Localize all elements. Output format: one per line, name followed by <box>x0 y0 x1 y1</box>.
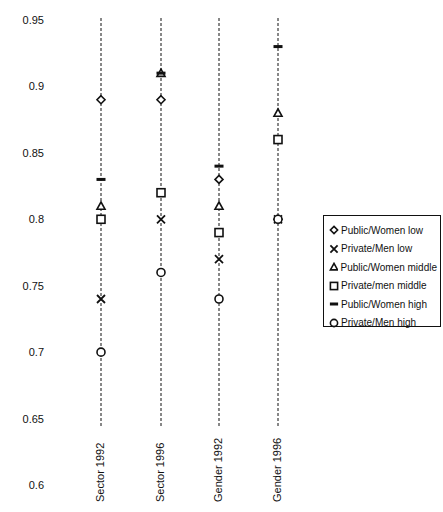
triangle-marker-icon <box>274 109 282 116</box>
legend-label: Private/Men low <box>341 243 412 254</box>
legend: Public/Women lowPrivate/Men lowPublic/Wo… <box>323 215 441 327</box>
series-public-women-middle <box>97 69 282 209</box>
legend-label: Private/men middle <box>341 280 427 291</box>
x-marker-icon <box>97 295 105 303</box>
legend-items: Public/Women lowPrivate/Men lowPublic/Wo… <box>329 221 437 332</box>
series-private-men-high <box>97 215 282 356</box>
x-marker-icon <box>157 215 165 223</box>
series-public-women-high <box>97 45 283 181</box>
square-marker-icon <box>97 215 105 223</box>
triangle-marker-icon <box>330 264 337 270</box>
y-tick-label: 0.95 <box>0 14 44 26</box>
circle-marker-icon <box>157 268 165 276</box>
circle-icon <box>329 318 339 328</box>
x-tick-label: Gender 1996 <box>271 438 283 502</box>
legend-label: Public/Women high <box>341 299 427 310</box>
diamond-marker-icon <box>97 96 105 104</box>
x-tick-label: Sector 1992 <box>94 443 106 502</box>
y-tick-label: 0.85 <box>0 147 44 159</box>
x-marker-icon <box>330 245 337 252</box>
square-marker-icon <box>274 136 282 144</box>
legend-item: Public/Women low <box>329 221 437 240</box>
legend-label: Public/Women low <box>341 225 423 236</box>
legend-item: Public/Women high <box>329 295 437 314</box>
circle-marker-icon <box>330 319 337 326</box>
diamond-icon <box>329 225 339 235</box>
dash-marker-icon <box>274 45 283 48</box>
chart-area: 0.950.90.850.80.750.70.650.6 Sector 1992… <box>0 0 443 512</box>
dash-icon <box>329 299 339 309</box>
series-public-women-low <box>97 96 282 224</box>
y-tick-label: 0.75 <box>0 280 44 292</box>
circle-marker-icon <box>274 215 282 223</box>
diamond-marker-icon <box>330 227 337 234</box>
square-icon <box>329 281 339 291</box>
y-tick-label: 0.7 <box>0 346 44 358</box>
legend-item: Private/Men low <box>329 240 437 259</box>
dash-marker-icon <box>157 72 166 75</box>
dash-marker-icon <box>330 303 338 306</box>
circle-marker-icon <box>215 295 223 303</box>
dash-marker-icon <box>215 165 224 168</box>
series-private-men-low <box>97 215 282 303</box>
x-tick-label: Sector 1996 <box>154 443 166 502</box>
legend-label: Public/Women middle <box>340 262 437 273</box>
square-marker-icon <box>215 229 223 237</box>
y-tick-label: 0.9 <box>0 80 44 92</box>
y-tick-label: 0.65 <box>0 413 44 425</box>
square-marker-icon <box>330 282 337 289</box>
legend-label: Private/Men high <box>341 317 416 328</box>
legend-item: Private/men middle <box>329 277 437 296</box>
triangle-icon <box>329 262 338 272</box>
x-tick-label: Gender 1992 <box>212 438 224 502</box>
triangle-marker-icon <box>215 202 223 209</box>
x-icon <box>329 244 339 254</box>
diamond-marker-icon <box>215 175 223 183</box>
y-tick-label: 0.8 <box>0 213 44 225</box>
legend-item: Public/Women middle <box>329 258 437 277</box>
dash-marker-icon <box>97 178 106 181</box>
square-marker-icon <box>157 189 165 197</box>
y-tick-label: 0.6 <box>0 479 44 491</box>
series-private-men-middle <box>97 136 282 237</box>
legend-item: Private/Men high <box>329 314 437 333</box>
x-marker-icon <box>215 255 223 263</box>
diamond-marker-icon <box>157 96 165 104</box>
triangle-marker-icon <box>97 202 105 209</box>
circle-marker-icon <box>97 348 105 356</box>
